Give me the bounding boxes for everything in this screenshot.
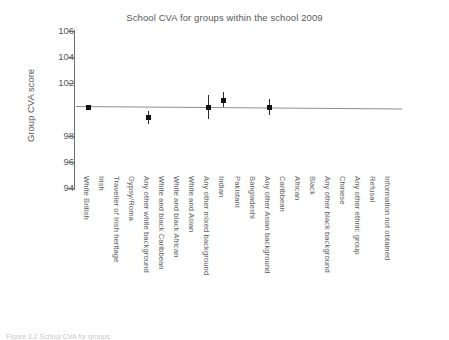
x-tick-label: African [293, 176, 302, 200]
x-tick-label: Any other Asian background [263, 176, 272, 274]
x-tick-label: Bangladeshi [248, 176, 257, 219]
x-tick-label: Pakistani [233, 176, 242, 208]
x-tick-label: Any other mixed background [202, 176, 211, 275]
x-tick-label: Black [308, 176, 317, 195]
x-tick-label: Chinese [338, 176, 347, 205]
x-tick-label: Traveller of Irish heritage [112, 176, 121, 262]
x-tick-label: Gypsy/Roma [127, 176, 136, 221]
x-tick-label: Information not obtained [383, 176, 392, 260]
x-tick-label: White and black African [172, 176, 181, 258]
x-tick-label: White and Asian [187, 176, 196, 232]
x-tick-label: White and black Caribbean [157, 176, 166, 270]
x-tick-label: Any other white background [142, 176, 151, 273]
x-tick-label: Irish [97, 176, 106, 191]
x-tick-label: Indian [217, 176, 226, 197]
x-tick-label: White British [82, 176, 91, 220]
chart-container: School CVA for groups within the school … [0, 0, 449, 340]
x-axis-labels: White BritishIrishTraveller of Irish her… [0, 0, 449, 340]
x-tick-label: Any other ethnic group [353, 176, 362, 255]
figure-caption: Figure 3.2 School CVA for groups [6, 333, 110, 340]
x-tick-label: Any other black background [323, 176, 332, 273]
x-tick-label: Caribbean [278, 176, 287, 212]
x-tick-label: Refusal [368, 176, 377, 202]
